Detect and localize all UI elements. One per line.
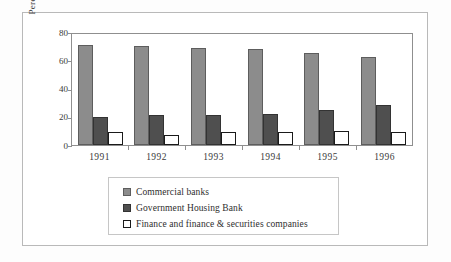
bar[interactable]	[391, 132, 406, 145]
legend-label: Commercial banks	[136, 187, 209, 197]
bar-group	[78, 34, 123, 145]
y-tick-mark	[68, 90, 72, 91]
x-tick-label: 1994	[243, 152, 299, 162]
legend-swatch-icon	[123, 204, 131, 212]
y-tick-mark	[68, 118, 72, 119]
x-tick-mark	[242, 146, 243, 150]
bar-group	[361, 34, 406, 145]
bar[interactable]	[263, 114, 278, 145]
x-tick-label: 1992	[129, 152, 185, 162]
plot-area	[71, 33, 413, 146]
y-tick-mark	[68, 146, 72, 147]
x-tick-mark	[356, 146, 357, 150]
bar[interactable]	[93, 117, 108, 145]
y-axis-tick-labels: 020406080	[42, 33, 68, 146]
bar[interactable]	[108, 132, 123, 145]
bar[interactable]	[221, 132, 236, 145]
y-tick-mark	[68, 61, 72, 62]
legend-item[interactable]: Government Housing Bank	[123, 200, 338, 215]
legend-swatch-icon	[123, 220, 131, 228]
bar[interactable]	[304, 53, 319, 145]
bar-group	[304, 34, 349, 145]
bar[interactable]	[376, 105, 391, 145]
legend-swatch-icon	[123, 188, 131, 196]
x-tick-label: 1996	[357, 152, 413, 162]
bars-layer	[72, 34, 412, 145]
bar[interactable]	[334, 131, 349, 145]
bar[interactable]	[191, 48, 206, 145]
x-tick-label: 1991	[72, 152, 128, 162]
y-tick-label: 80	[46, 29, 68, 38]
y-tick-label: 20	[46, 113, 68, 122]
x-tick-label: 1993	[186, 152, 242, 162]
bar-group	[191, 34, 236, 145]
legend-label: Government Housing Bank	[136, 203, 243, 213]
y-tick-label: 0	[46, 142, 68, 151]
bar[interactable]	[134, 46, 149, 145]
x-tick-mark	[299, 146, 300, 150]
x-tick-mark	[185, 146, 186, 150]
x-tick-mark	[128, 146, 129, 150]
bar[interactable]	[149, 115, 164, 145]
bar-group	[134, 34, 179, 145]
y-axis-title: Percentage Share	[25, 0, 39, 36]
bar[interactable]	[78, 45, 93, 145]
legend-item[interactable]: Finance and finance & securities compani…	[123, 216, 338, 231]
bar[interactable]	[164, 135, 179, 145]
x-axis-tick-labels: 199119921993199419951996	[71, 152, 413, 166]
y-tick-mark	[68, 33, 72, 34]
bar-group	[248, 34, 293, 145]
legend-item[interactable]: Commercial banks	[123, 184, 338, 199]
bar[interactable]	[319, 110, 334, 145]
bar[interactable]	[206, 115, 221, 145]
legend-label: Finance and finance & securities compani…	[136, 219, 308, 229]
bar[interactable]	[361, 57, 376, 145]
chart-figure: Percentage Share 020406080 1991199219931…	[0, 0, 451, 262]
y-tick-label: 40	[46, 85, 68, 94]
y-tick-label: 60	[46, 57, 68, 66]
x-tick-label: 1995	[300, 152, 356, 162]
chart-legend: Commercial banksGovernment Housing BankF…	[108, 177, 339, 235]
bar[interactable]	[278, 132, 293, 145]
bar[interactable]	[248, 49, 263, 145]
